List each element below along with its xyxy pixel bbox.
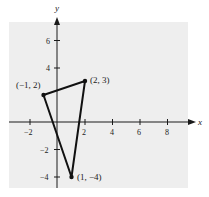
x-axis-arrow-icon [188,119,196,125]
y-axis-arrow-icon [54,17,60,25]
coordinate-plane: −2 2 4 6 8 6 4 −2 −4 x y (−1, 2) (2, 3) … [0,0,209,197]
x-axis-label: x [197,117,202,127]
vertex-point [69,175,73,179]
y-tick-label: −2 [40,146,49,155]
x-tick-label: 4 [110,128,114,137]
y-tick-label: 6 [46,37,50,46]
x-tick-label: 8 [165,128,169,137]
point-label: (1, −4) [77,172,102,182]
y-tick-label: 4 [46,64,50,73]
x-tick-label: 6 [137,128,141,137]
vertex-point [41,93,45,97]
x-tick-label: −2 [24,128,33,137]
plot-background [9,22,188,188]
y-tick-label: −4 [40,173,49,182]
x-tick-label: 2 [82,128,86,137]
vertex-point [83,79,87,83]
point-label: (2, 3) [90,75,110,85]
point-label: (−1, 2) [16,80,41,90]
y-axis-label: y [54,3,59,13]
